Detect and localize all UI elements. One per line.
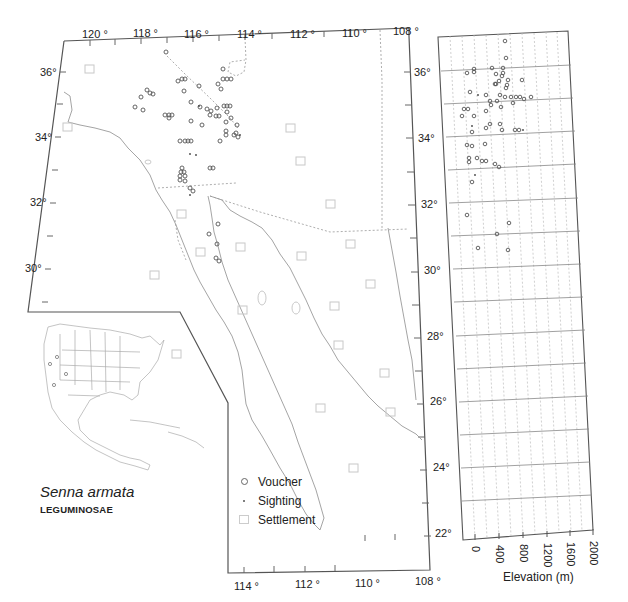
- lat-right-28: 28°: [427, 330, 444, 342]
- lat-right-24: 24°: [433, 461, 450, 473]
- lat-left-30: 30°: [25, 262, 42, 274]
- lat-left-32: 32°: [30, 196, 47, 208]
- lat-right-34: 34°: [418, 132, 435, 144]
- legend-item-voucher: Voucher: [238, 472, 315, 491]
- coastline: [64, 92, 422, 530]
- inset-map-north-america: [44, 324, 204, 470]
- state-borders: [158, 30, 408, 260]
- lon-label-116: 116 °: [184, 28, 209, 40]
- svg-text:1600: 1600: [565, 542, 577, 566]
- svg-text:800: 800: [518, 544, 530, 562]
- svg-text:2000: 2000: [588, 541, 600, 565]
- elevation-tick-labels: 0 400 800 1200 1600 2000: [470, 541, 600, 567]
- elevation-axis-title: Elevation (m): [503, 570, 574, 584]
- svg-text:1200: 1200: [542, 543, 554, 567]
- elevation-panel: 0 400 800 1200 1600 2000: [438, 31, 600, 567]
- lon-label-110: 110 °: [342, 27, 367, 39]
- lon-label-120: 120 °: [82, 28, 108, 40]
- svg-text:0: 0: [470, 546, 482, 552]
- voucher-points: [133, 50, 240, 263]
- voucher-circle-icon: [238, 476, 250, 488]
- lat-right-30: 30°: [424, 264, 441, 276]
- lon-bottom-112: 112 °: [295, 578, 320, 590]
- family-name: LEGUMINOSAE: [40, 504, 113, 515]
- settlements: [63, 65, 395, 472]
- lat-right-32: 32°: [421, 198, 438, 210]
- lat-left-36: 36°: [40, 66, 57, 78]
- lon-label-118: 118 °: [133, 27, 158, 39]
- lon-bottom-110: 110 °: [355, 577, 380, 589]
- lat-left-34: 34°: [35, 131, 52, 143]
- legend-label: Voucher: [258, 475, 302, 489]
- lon-label-112: 112 °: [290, 28, 315, 40]
- legend-item-sighting: Sighting: [238, 491, 315, 510]
- legend-label: Settlement: [258, 513, 315, 527]
- settlement-square-icon: [238, 514, 250, 526]
- legend-label: Sighting: [258, 494, 301, 508]
- lon-bottom-114: 114 °: [234, 580, 259, 592]
- lon-label-114: 114 °: [237, 28, 262, 40]
- lat-right-26: 26°: [430, 395, 447, 407]
- sighting-dot-icon: [238, 495, 250, 507]
- legend-item-settlement: Settlement: [238, 510, 315, 529]
- legend: Voucher Sighting Settlement: [238, 472, 315, 529]
- svg-text:400: 400: [494, 545, 506, 563]
- lon-bottom-108: 108 °: [415, 575, 441, 587]
- species-name: Senna armata: [40, 483, 134, 500]
- lat-right-22: 22°: [435, 527, 452, 539]
- lon-label-108: 108 °: [393, 25, 419, 37]
- lat-right-36: 36°: [414, 66, 431, 78]
